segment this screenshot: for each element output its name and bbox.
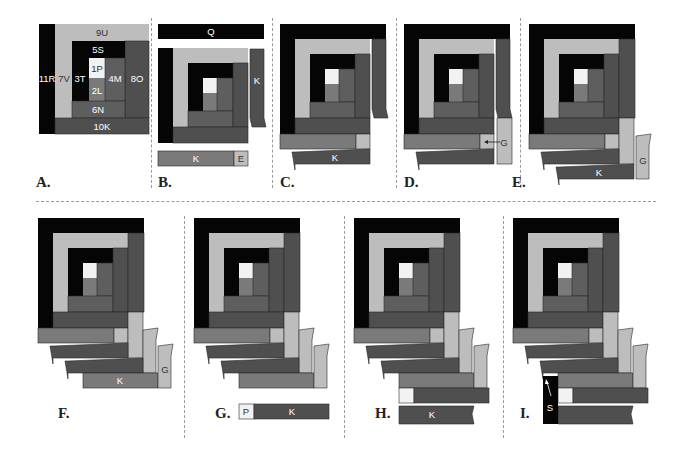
panel-label-i: I.: [520, 405, 530, 422]
panel-label-f: F.: [58, 405, 70, 422]
strip-label-2l: 2L: [92, 85, 103, 96]
block-diagram-i: S: [513, 218, 658, 433]
strip-label-g: G: [500, 137, 507, 148]
strip-label-10k: 10K: [94, 121, 112, 132]
strip-label-k-bottom: K: [193, 153, 200, 164]
strip-label-k: K: [596, 167, 603, 178]
separator-f-g: [184, 216, 185, 438]
panel-label-b: B.: [158, 174, 172, 191]
block-diagram-a: 9U 5S 1P 2L 3T 4M 6N 7V 8O 10K 11R: [39, 24, 149, 134]
panel-d: G: [404, 24, 519, 169]
panel-g: P K: [194, 218, 339, 433]
separator-d-e: [520, 18, 521, 188]
strip-label-p: P: [243, 406, 249, 417]
strip-label-7v: 7V: [58, 73, 70, 84]
panel-label-g: G.: [215, 405, 230, 422]
strip-label-s: S: [547, 402, 553, 413]
panel-f: K G: [38, 218, 183, 398]
panel-i: S: [513, 218, 658, 433]
panel-label-h: H.: [375, 405, 390, 422]
strip-label-k: K: [289, 406, 296, 417]
strip-label-q: Q: [207, 26, 214, 37]
block-diagram-c: K: [280, 24, 395, 169]
separator-b-c: [272, 18, 273, 188]
separator-g-h: [344, 216, 345, 438]
strip-label-g: G: [639, 155, 646, 166]
panel-label-a: A.: [36, 174, 51, 191]
strip-label-11r: 11R: [39, 73, 56, 84]
block-diagram-h: K: [354, 218, 499, 433]
strip-label-8o: 8O: [131, 73, 144, 84]
strip-label-6n: 6N: [92, 104, 104, 115]
block-diagram-b: Q K K E: [158, 24, 268, 169]
panel-c: K: [280, 24, 395, 169]
separator-row: [36, 201, 656, 202]
strip-label-k: K: [429, 409, 436, 420]
panel-b: Q K K E: [158, 24, 268, 169]
panel-label-d: D.: [404, 174, 419, 191]
strip-label-9u: 9U: [96, 27, 108, 38]
separator-c-d: [396, 18, 397, 188]
separator-h-i: [503, 216, 504, 438]
panel-e: K G: [529, 24, 654, 184]
block-diagram-f: K G: [38, 218, 183, 398]
strip-label-g: G: [161, 364, 168, 375]
panel-h: K: [354, 218, 499, 433]
panel-label-c: C.: [280, 174, 295, 191]
strip-label-5s: 5S: [92, 44, 104, 55]
block-diagram-d: G: [404, 24, 519, 169]
strip-label-k: K: [117, 375, 124, 386]
separator-a-b: [151, 18, 152, 188]
strip-label-k-side: K: [254, 75, 261, 86]
block-diagram-e: K G: [529, 24, 654, 184]
block-diagram-g: P K: [194, 218, 339, 433]
strip-label-e: E: [238, 153, 244, 164]
strip-label-4m: 4M: [108, 73, 121, 84]
panel-a: 9U 5S 1P 2L 3T 4M 6N 7V 8O 10K 11R: [39, 24, 149, 134]
strip-label-3t: 3T: [74, 73, 85, 84]
strip-label-k: K: [332, 152, 339, 163]
panel-label-e: E.: [512, 174, 526, 191]
strip-label-1p: 1P: [91, 63, 103, 74]
